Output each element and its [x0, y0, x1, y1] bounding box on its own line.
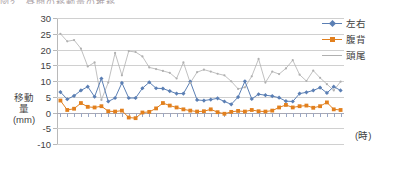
data-point-腹背	[332, 107, 336, 111]
data-point-左右	[106, 99, 110, 103]
data-point-腹背	[209, 107, 213, 111]
data-point-頭尾	[107, 81, 109, 83]
data-point-頭尾	[66, 40, 68, 42]
data-point-左右	[277, 96, 281, 100]
data-point-左右	[99, 76, 103, 80]
data-point-頭尾	[134, 51, 136, 53]
data-point-頭尾	[128, 50, 130, 52]
data-point-腹背	[113, 110, 117, 114]
data-point-左右	[127, 96, 131, 100]
data-point-頭尾	[326, 83, 328, 85]
data-point-左右	[120, 81, 124, 85]
data-point-頭尾	[230, 80, 232, 82]
data-point-頭尾	[80, 47, 82, 49]
data-point-左右	[304, 90, 308, 94]
y-axis-tick-label: 30	[21, 13, 51, 24]
data-point-腹背	[305, 104, 309, 108]
data-point-左右	[270, 94, 274, 98]
data-point-頭尾	[196, 71, 198, 73]
data-point-腹背	[257, 109, 261, 113]
data-point-頭尾	[59, 33, 61, 35]
series-line-頭尾	[60, 34, 340, 100]
data-point-頭尾	[319, 77, 321, 79]
data-point-頭尾	[155, 68, 157, 70]
data-point-腹背	[339, 108, 343, 112]
data-point-腹背	[277, 106, 281, 110]
data-point-頭尾	[93, 61, 95, 63]
series-line-腹背	[60, 101, 340, 119]
data-point-頭尾	[203, 69, 205, 71]
data-point-頭尾	[169, 72, 171, 74]
data-point-頭尾	[73, 39, 75, 41]
data-point-腹背	[216, 110, 220, 114]
x-axis-title: (時)	[355, 128, 371, 142]
data-point-頭尾	[121, 74, 123, 76]
data-point-腹背	[236, 109, 240, 113]
data-point-腹背	[284, 103, 288, 107]
legend-item-左右[interactable]: 左右	[322, 17, 366, 29]
data-point-頭尾	[298, 74, 300, 76]
data-point-頭尾	[251, 75, 253, 77]
data-point-頭尾	[210, 70, 212, 72]
data-point-頭尾	[244, 86, 246, 88]
data-point-頭尾	[100, 99, 102, 101]
data-point-頭尾	[339, 81, 341, 83]
data-point-左右	[222, 99, 226, 103]
data-point-腹背	[127, 116, 131, 120]
data-point-腹背	[134, 116, 138, 120]
data-point-左右	[174, 92, 178, 96]
data-point-頭尾	[305, 80, 307, 82]
data-point-腹背	[270, 109, 274, 113]
data-point-腹背	[86, 105, 90, 109]
data-point-左右	[209, 97, 213, 101]
data-point-腹背	[311, 106, 315, 110]
data-point-腹背	[250, 108, 254, 112]
y-axis-tick-label: 15	[21, 60, 51, 71]
data-point-腹背	[318, 104, 322, 108]
data-point-頭尾	[333, 89, 335, 91]
data-point-腹背	[168, 104, 172, 108]
y-axis-tick-label: -10	[21, 139, 51, 150]
data-point-腹背	[100, 104, 104, 108]
data-point-頭尾	[175, 77, 177, 79]
data-point-腹背	[188, 109, 192, 113]
data-point-左右	[202, 98, 206, 102]
data-point-腹背	[264, 110, 268, 114]
series-layer	[57, 18, 344, 144]
y-axis-tick-label: 10	[21, 76, 51, 87]
data-point-頭尾	[271, 70, 273, 72]
y-axis-tick-label: 5	[21, 91, 51, 102]
data-point-腹背	[202, 109, 206, 113]
legend-marker-icon	[322, 51, 342, 60]
data-point-頭尾	[182, 61, 184, 63]
data-point-左右	[161, 86, 165, 90]
data-point-腹背	[291, 106, 295, 110]
chart-title-clipped: 図2 昼間の移動量の推移	[0, 0, 240, 4]
data-point-頭尾	[162, 70, 164, 72]
legend-label: 頭尾	[346, 50, 366, 61]
data-point-頭尾	[216, 73, 218, 75]
data-point-左右	[181, 92, 185, 96]
data-point-腹背	[79, 101, 83, 105]
data-point-腹背	[229, 110, 233, 114]
data-point-頭尾	[285, 67, 287, 69]
data-point-頭尾	[223, 74, 225, 76]
data-point-腹背	[141, 111, 145, 115]
data-point-左右	[168, 89, 172, 93]
plot-area	[57, 18, 344, 144]
legend-item-腹背[interactable]: 腹背	[322, 33, 366, 45]
data-point-左右	[195, 98, 199, 102]
legend-label: 左右	[346, 18, 366, 29]
data-point-頭尾	[264, 81, 266, 83]
y-axis-tick-label: 0	[21, 107, 51, 118]
data-point-腹背	[106, 109, 110, 113]
data-point-腹背	[59, 99, 63, 103]
data-point-腹背	[175, 106, 179, 110]
data-point-腹背	[65, 108, 69, 112]
legend-marker-icon	[322, 35, 342, 44]
data-point-腹背	[243, 110, 247, 114]
data-point-腹背	[223, 112, 227, 116]
data-point-腹背	[154, 107, 158, 111]
data-point-左右	[311, 88, 315, 92]
legend-item-頭尾[interactable]: 頭尾	[322, 49, 366, 61]
